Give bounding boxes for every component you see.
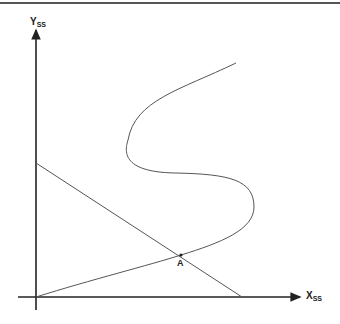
point-a-label: A [177,258,184,268]
declining-line [36,163,242,297]
point-a-marker [179,253,182,256]
x-axis-label: XSS [306,290,322,302]
diagram-canvas [0,0,340,324]
y-axis-label: YSS [30,16,46,28]
s-curve [36,63,254,297]
